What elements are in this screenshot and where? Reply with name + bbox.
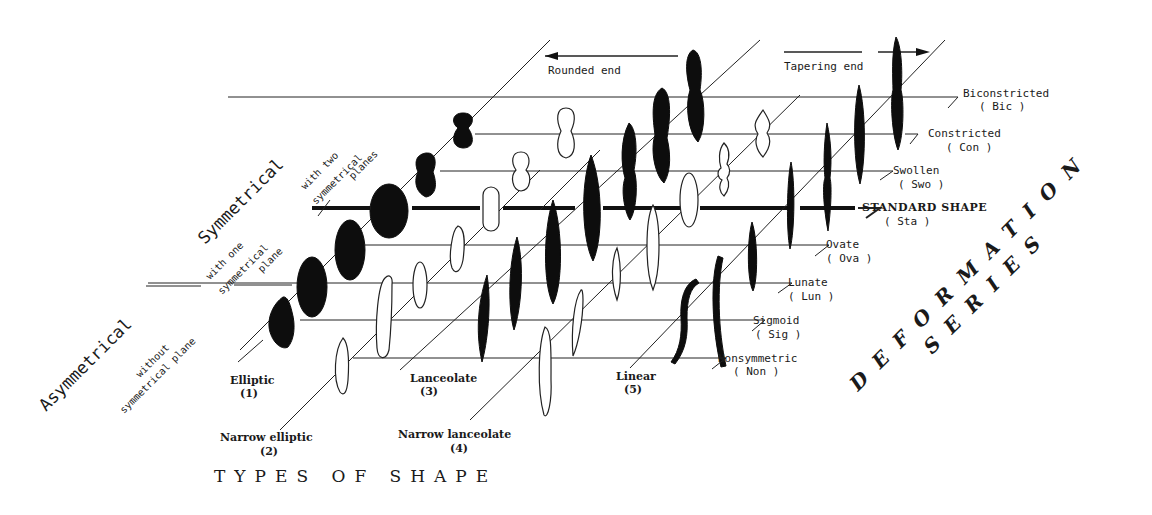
row-code-ova: ( Ova ) <box>826 252 872 265</box>
shape-label-elliptic: Elliptic <box>230 374 275 387</box>
tapering-end-label: Tapering end <box>784 60 863 73</box>
shape-code-elliptic: (1) <box>240 387 258 400</box>
row-code-sta: ( Sta ) <box>884 215 930 228</box>
row-code-con: ( Con ) <box>946 141 992 154</box>
row-label-swo: Swollen <box>893 164 939 177</box>
types-of-shape-title: TYPES OF SHAPE <box>214 466 497 486</box>
svg-text:Asymmetrical: Asymmetrical <box>35 314 136 415</box>
row-label-non: Nonsymmetric <box>718 352 797 365</box>
row-label-sig: Sigmoid <box>753 314 799 327</box>
shape-label-lanceolate: Lanceolate <box>410 372 477 385</box>
asymmetrical-label: Asymmetrical <box>35 314 136 415</box>
row-code-non: ( Non ) <box>733 365 779 378</box>
row-label-sta: STANDARD SHAPE <box>862 201 987 214</box>
row-label-ova: Ovate <box>826 238 859 251</box>
row-label-bic: Biconstricted <box>963 87 1049 100</box>
row-code-bic: ( Bic ) <box>979 100 1025 113</box>
row-code-lun: ( Lun ) <box>788 290 834 303</box>
rounded-end-label: Rounded end <box>548 64 621 77</box>
shape-code-lanceolate: (3) <box>420 385 438 398</box>
deformation-title: DEFORMATION <box>844 144 1096 396</box>
row-code-sig: ( Sig ) <box>755 328 801 341</box>
deformation-series-diagram: Rounded end Tapering end <box>0 0 1152 515</box>
svg-text:DEFORMATION: DEFORMATION <box>844 144 1096 396</box>
tapering-end-arrow <box>784 48 930 56</box>
shape-code-narrow-elliptic: (2) <box>260 445 278 458</box>
shape-label-linear: Linear <box>616 370 656 383</box>
row-code-swo: ( Swo ) <box>898 178 944 191</box>
shape-code-linear: (5) <box>624 383 642 396</box>
shape-label-narrow-elliptic: Narrow elliptic <box>220 431 313 444</box>
symmetrical-label: Symmetrical <box>194 154 288 248</box>
shape-label-narrow-lanceolate: Narrow lanceolate <box>398 428 511 441</box>
shape-code-narrow-lanceolate: (4) <box>450 442 468 455</box>
row-label-con: Constricted <box>928 127 1001 140</box>
row-label-lun: Lunate <box>788 276 828 289</box>
rounded-end-arrow <box>545 52 678 60</box>
svg-text:Symmetrical: Symmetrical <box>194 154 288 248</box>
